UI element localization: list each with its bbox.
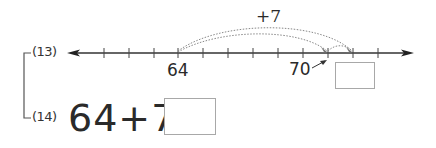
equation-answer-box[interactable] — [164, 98, 216, 135]
label-pointer-arrowhead-icon — [320, 60, 327, 65]
intermediate-tick-label: 70 — [289, 59, 311, 79]
number-line-answer-box[interactable] — [335, 62, 375, 89]
problem-14-number: (14) — [32, 109, 57, 124]
jump-label: +7 — [256, 6, 281, 26]
start-tick-label: 64 — [167, 60, 189, 80]
problem-13-number: (13) — [32, 44, 57, 59]
jump-arc-to-71 — [178, 28, 352, 51]
bracket-line — [24, 53, 31, 118]
